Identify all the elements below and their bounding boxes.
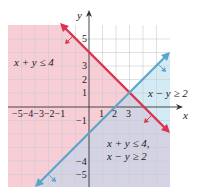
solution-label-line-1: x + y ≤ 4, xyxy=(107,137,149,150)
y-tick-minus-5: −5 xyxy=(76,170,87,180)
x-tick-3: 3 xyxy=(126,109,131,119)
x-axis-label: x xyxy=(183,110,188,121)
x-tick-2: 2 xyxy=(112,109,117,119)
red-inequality-label: x + y ≤ 4 xyxy=(14,56,54,69)
y-tick-1: 1 xyxy=(82,88,87,98)
y-tick-minus-1: −1 xyxy=(76,116,87,126)
y-tick-2: 2 xyxy=(82,75,87,85)
y-tick-minus-4: −4 xyxy=(76,157,87,167)
x-ticks-negative: −5−4−3−2−1 xyxy=(12,109,65,119)
blue-inequality-label: x − y ≥ 2 xyxy=(148,87,188,100)
y-tick-3: 3 xyxy=(82,61,87,71)
y-tick-5: 5 xyxy=(82,34,87,44)
solution-label-line-2: x − y ≥ 2 xyxy=(107,150,147,163)
y-axis-label: y xyxy=(77,10,82,21)
x-tick-1: 1 xyxy=(99,109,104,119)
